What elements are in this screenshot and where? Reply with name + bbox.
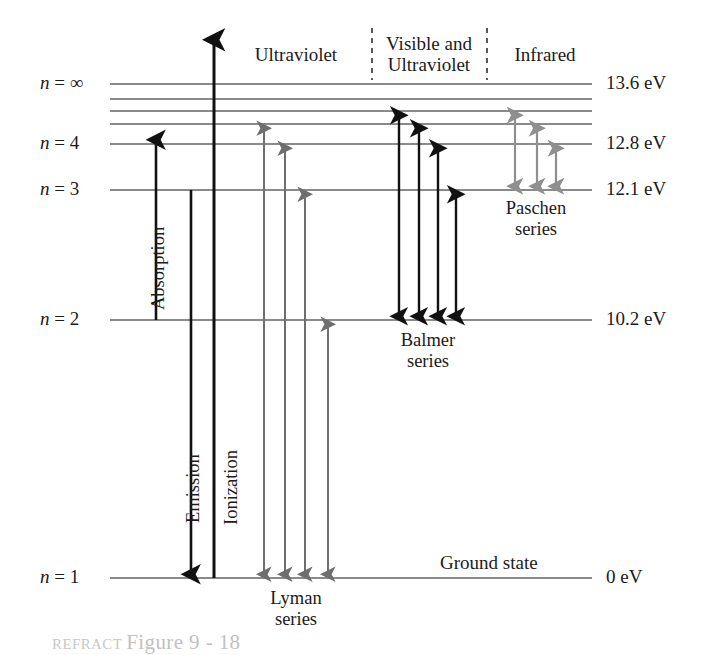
lyman-series-label-line1: Lyman xyxy=(270,588,321,609)
lyman-series-arrows xyxy=(264,128,328,574)
level-value-n-2: 2 xyxy=(70,308,80,329)
header-ultraviolet-label: Ultraviolet xyxy=(255,44,337,65)
paschen-series-arrows xyxy=(515,115,556,186)
lyman-series-label: Lyman series xyxy=(270,588,321,629)
energy-label-12-8: 12.8 eV xyxy=(606,132,666,154)
caption-mark: REFRACT xyxy=(52,636,122,652)
header-visible-and-ultraviolet: Visible and Ultraviolet xyxy=(386,33,472,76)
lyman-series-label-line2: series xyxy=(270,609,321,630)
energy-label-13-6: 13.6 eV xyxy=(606,72,666,94)
level-value-n-3: 3 xyxy=(70,178,80,199)
header-ultraviolet: Ultraviolet xyxy=(255,44,337,65)
header-visible-line1: Visible and xyxy=(386,33,472,54)
paschen-series-label: Paschen series xyxy=(506,198,567,239)
header-infrared-label: Infrared xyxy=(514,44,575,65)
level-label-n-3: n = 3 xyxy=(40,178,79,200)
level-value-n-1: 1 xyxy=(70,566,80,587)
level-value-n-infinity: ∞ xyxy=(70,72,84,93)
energy-label-0: 0 eV xyxy=(606,566,642,588)
balmer-series-label-line1: Balmer xyxy=(401,330,455,351)
level-label-n-2: n = 2 xyxy=(40,308,79,330)
balmer-series-label: Balmer series xyxy=(401,330,455,371)
level-value-n-4: 4 xyxy=(70,132,80,153)
level-label-n-1: n = 1 xyxy=(40,566,79,588)
level-label-n-4: n = 4 xyxy=(40,132,79,154)
caption-fragment: REFRACT Figure 9 - 18 xyxy=(52,630,240,655)
paschen-series-label-line1: Paschen xyxy=(506,198,567,219)
ionization-label: Ionization xyxy=(221,450,242,525)
emission-label: Emission xyxy=(183,454,204,523)
balmer-series-label-line2: series xyxy=(401,351,455,372)
balmer-series-arrows xyxy=(399,115,456,316)
header-visible-line2: Ultraviolet xyxy=(386,54,472,75)
ground-state-label: Ground state xyxy=(440,552,538,574)
level-label-n-infinity: n = ∞ xyxy=(40,72,83,94)
paschen-series-label-line2: series xyxy=(506,219,567,240)
energy-label-10-2: 10.2 eV xyxy=(606,308,666,330)
caption-text: Figure 9 - 18 xyxy=(126,630,240,654)
header-infrared: Infrared xyxy=(514,44,575,65)
energy-label-12-1: 12.1 eV xyxy=(606,178,666,200)
absorption-label: Absorption xyxy=(148,227,169,310)
